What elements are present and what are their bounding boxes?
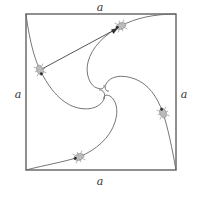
curve-bottom-left bbox=[26, 95, 117, 170]
side-label-bottom: a bbox=[97, 176, 104, 187]
side-label-right: a bbox=[181, 89, 188, 100]
bug-left bbox=[33, 63, 47, 77]
curve-top-left bbox=[26, 14, 105, 109]
bug-right bbox=[156, 106, 170, 120]
bug-top bbox=[114, 19, 128, 33]
bug-bottom bbox=[72, 150, 86, 164]
diagram-canvas bbox=[0, 0, 197, 197]
side-label-left: a bbox=[15, 89, 22, 100]
pursuit-diagram: a a a a bbox=[0, 0, 197, 197]
side-label-top: a bbox=[97, 2, 104, 13]
chase-line bbox=[40, 28, 118, 70]
curve-bottom-right bbox=[105, 76, 176, 170]
